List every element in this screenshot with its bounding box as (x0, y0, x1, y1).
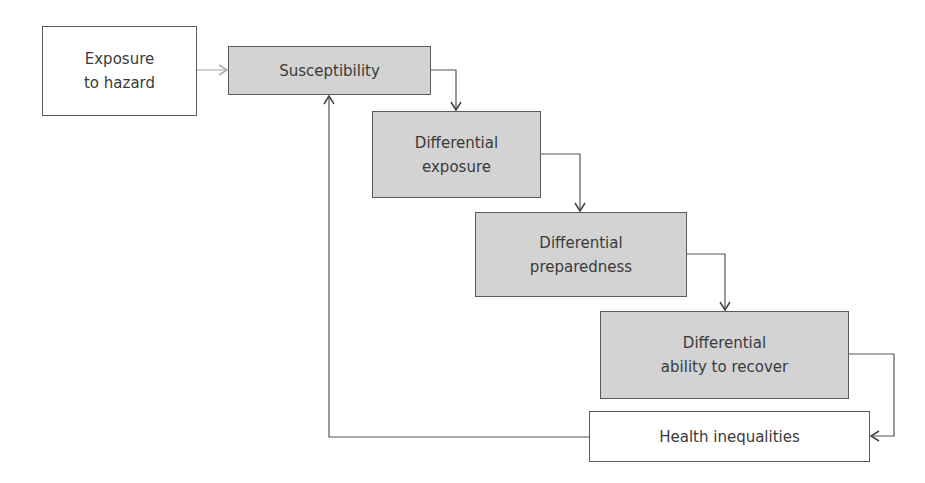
node-exposure-to-hazard: Exposure to hazard (42, 26, 197, 116)
arrow-susceptibility-to-diff-exposure (431, 70, 456, 110)
node-label-line: preparedness (530, 255, 632, 279)
node-label-line: Differential (539, 231, 622, 255)
node-differential-preparedness: Differential preparedness (475, 212, 687, 297)
node-label-line: Differential (415, 131, 498, 155)
arrow-diff-exposure-to-diff-preparedness (541, 154, 580, 211)
node-label-line: Differential (683, 331, 766, 355)
node-label-line: to hazard (84, 71, 155, 95)
node-differential-ability-to-recover: Differential ability to recover (600, 311, 849, 399)
node-health-inequalities: Health inequalities (589, 411, 870, 462)
node-label-line: ability to recover (661, 355, 788, 379)
node-label-line: Health inequalities (659, 425, 800, 449)
arrow-diff-preparedness-to-diff-recover (687, 254, 725, 310)
node-susceptibility: Susceptibility (228, 46, 431, 95)
node-label-line: Susceptibility (279, 59, 380, 83)
node-label-line: Exposure (85, 47, 154, 71)
node-label-line: exposure (422, 155, 491, 179)
node-differential-exposure: Differential exposure (372, 111, 541, 198)
